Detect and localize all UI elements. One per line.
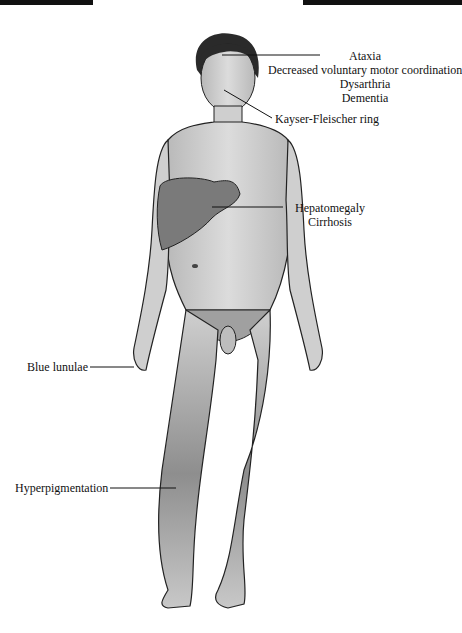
label-dementia: Dementia [268, 91, 462, 105]
label-hepatomegaly: Hepatomegaly [285, 201, 375, 215]
label-hyperpigmentation: Hyperpigmentation [15, 481, 108, 495]
left-leg [159, 310, 218, 608]
label-ataxia: Ataxia [268, 49, 462, 63]
right-arm [286, 140, 322, 370]
label-kayser-fleischer: Kayser-Fleischer ring [275, 112, 379, 126]
liver-findings-label: Hepatomegaly Cirrhosis [285, 201, 375, 229]
left-arm [134, 140, 170, 370]
label-decreased-coordination: Decreased voluntary motor coordination [268, 63, 462, 77]
label-dysarthria: Dysarthria [268, 77, 462, 91]
head-findings-label: Ataxia Decreased voluntary motor coordin… [268, 49, 462, 105]
label-cirrhosis: Cirrhosis [285, 215, 375, 229]
right-leg [216, 310, 271, 608]
label-blue-lunulae: Blue lunulae [27, 360, 88, 374]
